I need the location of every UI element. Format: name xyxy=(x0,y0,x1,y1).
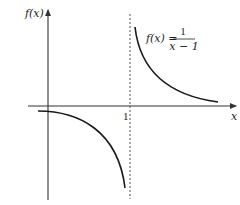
y-axis-label: f(x) xyxy=(24,7,44,20)
asymptote-tick-label: 1 xyxy=(123,110,129,122)
equation-numerator: 1 xyxy=(180,25,186,37)
curve-left-branch xyxy=(38,111,125,188)
function-graph: f(x) x 1 f(x) = 1 x − 1 xyxy=(0,0,240,205)
equation-denominator: x − 1 xyxy=(169,40,198,53)
equation: f(x) = 1 x − 1 xyxy=(145,25,199,53)
x-axis-label: x xyxy=(231,110,238,123)
